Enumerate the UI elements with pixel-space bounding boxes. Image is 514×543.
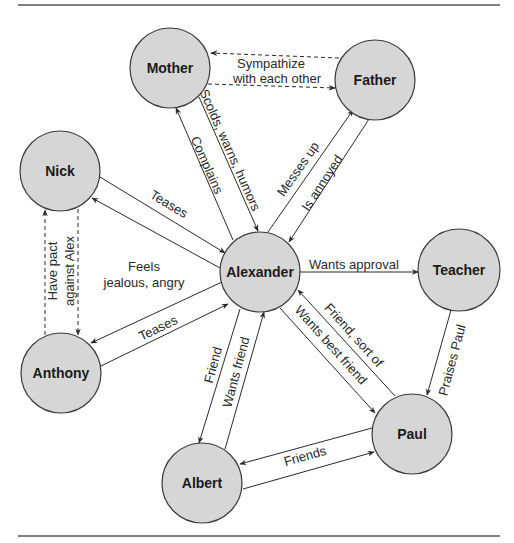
node-label: Mother: [147, 60, 194, 76]
node-paul: Paul: [372, 394, 452, 474]
node-alexander: Alexander: [220, 232, 300, 312]
label-pact-line1: Have pact: [45, 241, 60, 300]
label-feels-line1: Feels: [128, 259, 160, 274]
label-wants-approval: Wants approval: [309, 257, 399, 272]
label-wants-friend: Wants friend: [219, 335, 252, 409]
node-father: Father: [335, 40, 415, 120]
edge-paul-to-alexander: [298, 290, 395, 396]
node-label: Father: [354, 72, 397, 88]
label-friend: Friend: [201, 345, 225, 384]
node-label: Alexander: [226, 264, 294, 280]
node-label: Albert: [182, 475, 223, 491]
label-anthony-teases: Teases: [136, 312, 180, 344]
node-label: Nick: [45, 163, 75, 179]
node-label: Anthony: [33, 365, 90, 381]
node-albert: Albert: [162, 443, 242, 523]
node-nick: Nick: [20, 131, 100, 211]
relationship-diagram: Sympathize with each other Scolds, warns…: [0, 0, 514, 543]
node-teacher: Teacher: [418, 229, 500, 311]
label-nick-teases: Teases: [147, 187, 190, 221]
label-feels-line2: jealous, angry: [103, 275, 185, 290]
label-sympathize-line2: with each other: [232, 71, 322, 86]
label-sympathize-line1: Sympathize: [237, 56, 305, 71]
label-pact-line2: against Alex: [62, 235, 77, 306]
node-mother: Mother: [130, 28, 210, 108]
label-praises-paul: Praises Paul: [435, 323, 468, 397]
node-label: Paul: [397, 426, 427, 442]
node-anthony: Anthony: [21, 333, 101, 413]
edge-alexander-to-nick: [92, 198, 220, 268]
edge-nick-to-alexander: [100, 177, 225, 253]
edge-alexander-to-paul: [280, 308, 375, 413]
node-label: Teacher: [433, 262, 486, 278]
